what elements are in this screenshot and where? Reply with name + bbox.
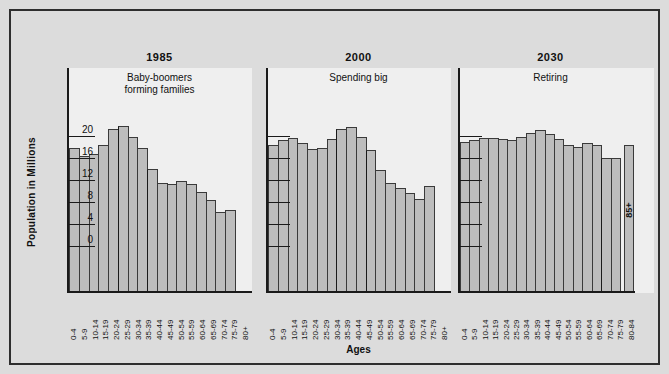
y-tick bbox=[458, 180, 482, 181]
y-tick bbox=[266, 158, 290, 159]
x-axis-line bbox=[67, 291, 252, 293]
x-tick-label: 40-44 bbox=[543, 298, 553, 340]
panel-title: 2030 bbox=[458, 51, 643, 63]
y-tick bbox=[266, 136, 290, 137]
bar bbox=[611, 158, 621, 291]
x-tick-label: 50-54 bbox=[376, 298, 387, 340]
y-tick-label: 16 bbox=[71, 146, 93, 157]
y-tick bbox=[67, 136, 95, 137]
x-tick-label: 70-74 bbox=[419, 298, 430, 340]
x-tick-label: 40-44 bbox=[155, 298, 166, 340]
x-tick-label: 45-49 bbox=[554, 298, 564, 340]
x-tick-label: 20-24 bbox=[311, 298, 322, 340]
x-tick-label: 40-44 bbox=[354, 298, 365, 340]
x-tick-label: 15-19 bbox=[300, 298, 311, 340]
x-tick-label: 25-29 bbox=[512, 298, 522, 340]
x-tick-label: 0-4 bbox=[69, 298, 80, 340]
x-tick-label: 65-69 bbox=[209, 298, 220, 340]
y-axis-title: Population in Millions bbox=[23, 107, 39, 277]
panel-title: 2000 bbox=[266, 51, 451, 63]
x-tick-label: 35-39 bbox=[533, 298, 543, 340]
x-tick-label: 30-34 bbox=[134, 298, 145, 340]
y-tick-label: 4 bbox=[71, 212, 93, 223]
y-tick-label: 20 bbox=[71, 124, 93, 135]
x-axis-title: Ages bbox=[266, 344, 451, 355]
x-tick-label: 30-34 bbox=[522, 298, 532, 340]
y-tick bbox=[67, 246, 95, 247]
y-tick-label: 8 bbox=[71, 190, 93, 201]
x-tick-labels: 0-45-910-1415-1920-2425-2930-3435-3940-4… bbox=[69, 298, 252, 340]
x-tick-label: 35-39 bbox=[144, 298, 155, 340]
x-tick-label: 65-69 bbox=[408, 298, 419, 340]
y-tick bbox=[458, 202, 482, 203]
y-tick bbox=[458, 158, 482, 159]
y-tick bbox=[266, 246, 290, 247]
y-tick bbox=[67, 158, 95, 159]
x-tick-label: 5-9 bbox=[470, 298, 480, 340]
x-tick-label: 70-74 bbox=[606, 298, 616, 340]
plot-area: Retiring 85+ bbox=[458, 68, 654, 293]
panel-2030: 2030 Retiring 85+ 0-45-910-1415-1920-242… bbox=[458, 51, 654, 297]
y-tick bbox=[266, 180, 290, 181]
y-tick bbox=[67, 224, 95, 225]
y-tick bbox=[458, 246, 482, 247]
x-tick-label: 10-14 bbox=[290, 298, 301, 340]
chart-frame: Population in Millions 1985 Baby-boomers… bbox=[9, 9, 660, 365]
plot-area: Baby-boomers forming families 048121620 bbox=[67, 68, 252, 293]
x-tick-label: 25-29 bbox=[322, 298, 333, 340]
panel-2000: 2000 Spending big 0-45-910-1415-1920-242… bbox=[266, 51, 451, 297]
x-tick-label: 5-9 bbox=[80, 298, 91, 340]
x-axis-line bbox=[266, 291, 451, 293]
bar-label-85-plus: 85+ bbox=[624, 202, 634, 217]
x-tick-labels: 0-45-910-1415-1920-2425-2930-3435-3940-4… bbox=[268, 298, 451, 340]
bar bbox=[225, 210, 236, 291]
x-tick-label: 0-4 bbox=[268, 298, 279, 340]
bar bbox=[424, 186, 435, 292]
y-tick bbox=[266, 224, 290, 225]
x-tick-label: 25-29 bbox=[123, 298, 134, 340]
y-tick bbox=[67, 180, 95, 181]
x-tick-label: 45-49 bbox=[365, 298, 376, 340]
x-tick-label: 5-9 bbox=[279, 298, 290, 340]
y-tick bbox=[458, 224, 482, 225]
chart-page: Population in Millions 1985 Baby-boomers… bbox=[0, 0, 669, 374]
x-tick-label: 50-54 bbox=[177, 298, 188, 340]
x-tick-label: 75-79 bbox=[429, 298, 440, 340]
x-tick-labels: 0-45-910-1415-1920-2425-2930-3435-3940-4… bbox=[460, 298, 637, 340]
plot-area: Spending big bbox=[266, 68, 451, 293]
x-tick-label: 30-34 bbox=[333, 298, 344, 340]
x-tick-label: 55-59 bbox=[574, 298, 584, 340]
x-tick-label: 75-79 bbox=[616, 298, 626, 340]
x-tick-label: 50-54 bbox=[564, 298, 574, 340]
y-tick bbox=[458, 136, 482, 137]
x-tick-label: 20-24 bbox=[502, 298, 512, 340]
x-tick-label: 60-64 bbox=[585, 298, 595, 340]
x-tick-label: 60-64 bbox=[397, 298, 408, 340]
x-tick-label: 80+ bbox=[440, 298, 451, 340]
x-tick-label: 15-19 bbox=[491, 298, 501, 340]
x-tick-label: 10-14 bbox=[481, 298, 491, 340]
x-tick-label: 55-59 bbox=[386, 298, 397, 340]
x-tick-label: 60-64 bbox=[198, 298, 209, 340]
x-tick-label: 35-39 bbox=[343, 298, 354, 340]
x-axis-line bbox=[458, 291, 635, 293]
bar-85-plus: 85+ bbox=[624, 145, 634, 291]
panel-1985: 1985 Baby-boomers forming families 04812… bbox=[67, 51, 252, 297]
bar-group bbox=[69, 68, 252, 291]
x-tick-label: 20-24 bbox=[112, 298, 123, 340]
panel-title: 1985 bbox=[67, 51, 252, 63]
x-tick-label: 65-69 bbox=[595, 298, 605, 340]
x-tick-label: 55-59 bbox=[187, 298, 198, 340]
x-tick-label: 75-79 bbox=[230, 298, 241, 340]
x-tick-label: 45-49 bbox=[166, 298, 177, 340]
y-tick bbox=[67, 202, 95, 203]
x-tick-label: 70-74 bbox=[220, 298, 231, 340]
x-tick-label: 0-4 bbox=[460, 298, 470, 340]
x-tick-label: 15-19 bbox=[101, 298, 112, 340]
y-tick-label: 0 bbox=[71, 234, 93, 245]
y-tick bbox=[266, 202, 290, 203]
x-tick-label: 10-14 bbox=[91, 298, 102, 340]
x-tick-label: 80-84 bbox=[627, 298, 637, 340]
x-tick-label: 80+ bbox=[241, 298, 252, 340]
bar-group bbox=[268, 68, 451, 291]
